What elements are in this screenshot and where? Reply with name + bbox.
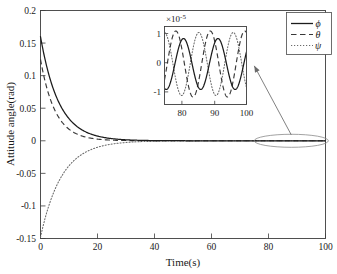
x-tick-label-2: 40 [150,242,160,252]
inset-exponent-label: ×10-5 [166,13,186,25]
inset-y-tick-0: 1 [157,29,162,39]
y-axis-title: Attitude angle(rad) [4,82,17,166]
legend-label-phi: ϕ [315,18,320,29]
x-tickmarks [41,234,326,239]
inset-frame [165,27,247,105]
y-tickmarks [41,11,46,239]
legend-box [287,13,332,55]
y-tick-label-6: -0.1 [21,201,36,211]
x-tick-label-4: 80 [264,242,274,252]
inset-x-tick-0: 80 [177,108,187,118]
x-tick-label-1: 20 [93,242,103,252]
y-tick-label-3: 0.05 [19,104,36,114]
inset-y-tick-1: 0 [157,58,162,68]
inset-x-tick-1: 90 [210,108,220,118]
x-tick-label-5: 100 [318,242,333,252]
y-tick-label-5: -0.05 [16,169,36,179]
chart-figure: 0.2 0.15 0.1 0.05 0 -0.05 -0.1 -0.15 0 2… [0,0,337,274]
x-tick-label-0: 0 [38,242,43,252]
x-axis-title: Time(s) [166,256,201,269]
attitude-angle-plot: 0.2 0.15 0.1 0.05 0 -0.05 -0.1 -0.15 0 2… [0,0,337,274]
x-tick-label-3: 60 [207,242,217,252]
y-tick-label-7: -0.15 [16,234,36,244]
y-tick-label-1: 0.15 [19,39,36,49]
legend[interactable]: ϕ θ ψ [287,13,332,55]
curve-psi [41,141,326,237]
y-tick-label-2: 0.1 [24,71,36,81]
y-tick-label-0: 0.2 [24,6,36,16]
legend-label-theta: θ [316,29,321,40]
zoom-callout-arrow [254,66,291,135]
y-tick-label-4: 0 [31,136,36,146]
inset-plot: ×10-5 1 0 -1 80 90 100 [154,13,254,119]
legend-label-psi: ψ [315,40,322,51]
inset-x-tick-2: 100 [240,108,254,118]
inset-y-tick-2: -1 [154,87,162,97]
